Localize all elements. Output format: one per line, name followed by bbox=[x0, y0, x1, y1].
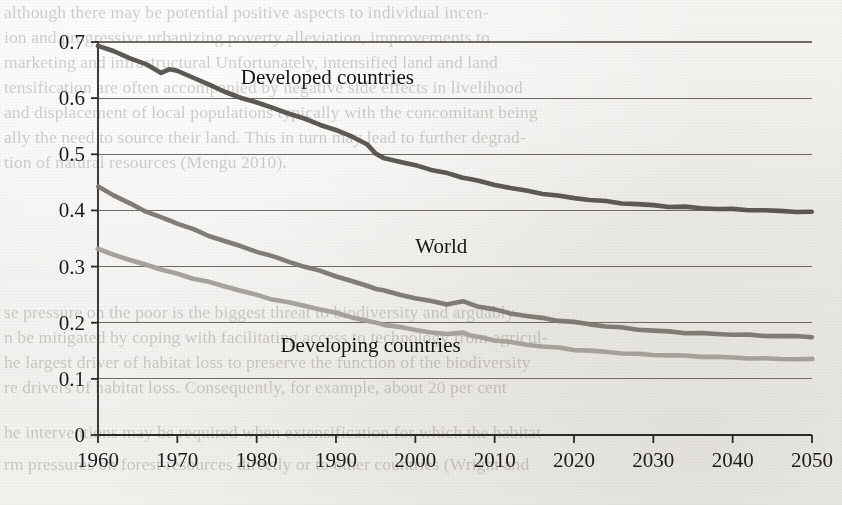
y-tick-label: 0.7 bbox=[59, 30, 85, 54]
y-tick-label: 0.2 bbox=[59, 311, 85, 335]
y-tick-label: 0.5 bbox=[59, 142, 85, 166]
y-tick-label: 0 bbox=[75, 423, 86, 447]
x-tick-label: 2040 bbox=[712, 448, 754, 472]
series-annotation: World bbox=[415, 234, 467, 258]
x-tick-label: 2030 bbox=[632, 448, 674, 472]
line-chart: 00.10.20.30.40.50.60.7 19601970198019902… bbox=[0, 0, 842, 505]
y-tick-label: 0.6 bbox=[59, 86, 85, 110]
series-annotation: Developing countries bbox=[280, 333, 460, 357]
x-tick-label: 1960 bbox=[77, 448, 119, 472]
y-tick-label: 0.3 bbox=[59, 255, 85, 279]
x-tick-label: 1970 bbox=[156, 448, 198, 472]
x-tick-label: 1990 bbox=[315, 448, 357, 472]
data-series-lines bbox=[98, 46, 813, 359]
x-tick-label: 1980 bbox=[236, 448, 278, 472]
x-tick-label: 2010 bbox=[474, 448, 516, 472]
series-annotation: Developed countries bbox=[241, 65, 414, 89]
x-axis-tick-labels: 1960197019801990200020102020203020402050 bbox=[77, 448, 833, 472]
y-axis-tick-labels: 00.10.20.30.40.50.60.7 bbox=[59, 30, 86, 447]
series-line bbox=[98, 46, 812, 212]
x-tick-label: 2000 bbox=[394, 448, 436, 472]
chart-svg: 00.10.20.30.40.50.60.7 19601970198019902… bbox=[0, 0, 842, 505]
y-tick-label: 0.1 bbox=[59, 367, 85, 391]
x-tick-label: 2050 bbox=[791, 448, 833, 472]
x-tick-label: 2020 bbox=[553, 448, 595, 472]
y-tick-label: 0.4 bbox=[59, 198, 86, 222]
